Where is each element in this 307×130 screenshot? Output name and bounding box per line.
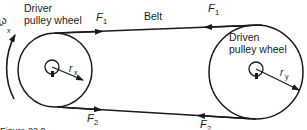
driver-pulley-wheel [18, 33, 92, 107]
driven-label-line1: Driven [229, 31, 260, 43]
driven-label-line2: pulley wheel [229, 43, 287, 55]
svg-text:ω: ω [0, 13, 9, 28]
omega-x-subscript: x [7, 27, 11, 34]
driven-radius-line [256, 69, 299, 90]
driver-shaft-key [51, 71, 54, 77]
force-f2-right-subscript: 2 [207, 124, 211, 130]
figure-caption: Figure 22.9 [0, 126, 46, 130]
driver-radius-subscript: x [74, 69, 78, 76]
force-arrow-f1-left [60, 31, 102, 33]
driver-radius-line [52, 67, 83, 80]
driver-label-line1: Driver [24, 2, 53, 14]
angular-velocity-arrow [7, 35, 15, 99]
omega-x-label: ω [0, 13, 9, 28]
driven-radius-label: r [280, 67, 284, 78]
driver-radius-label: r [69, 63, 73, 74]
driven-shaft-key [255, 73, 258, 79]
driven-radius-subscript: y [285, 73, 289, 81]
force-f1-right-subscript: 1 [215, 8, 219, 17]
force-f2-left-subscript: 2 [94, 118, 98, 127]
force-f1-left-subscript: 1 [103, 17, 107, 26]
belt-label: Belt [144, 10, 162, 22]
driver-label-line2: pulley wheel [24, 14, 82, 26]
force-arrow-f2-left [62, 107, 101, 109]
belt-drive-diagram: Driver pulley wheel Driven pulley wheel … [0, 0, 307, 130]
